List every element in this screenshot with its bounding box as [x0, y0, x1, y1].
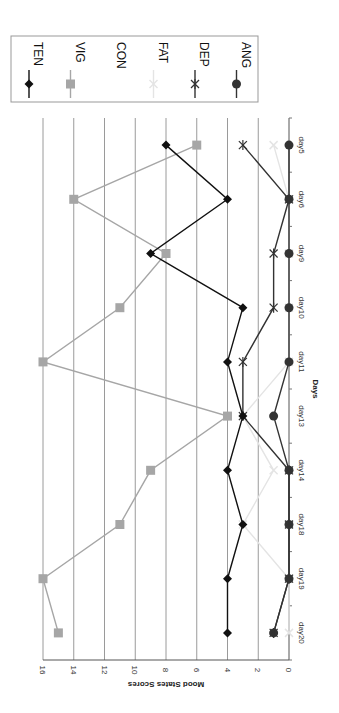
diamond-marker-icon	[223, 628, 232, 637]
mood-states-line-chart: TENVIGCONFATDEPANG day5day6day9day10day1…	[0, 0, 339, 713]
circle-marker-icon	[285, 357, 294, 366]
value-tick-label: 14	[69, 666, 78, 675]
series-line	[274, 145, 289, 633]
legend-label: TEN	[31, 42, 45, 66]
square-marker-icon	[223, 412, 232, 421]
square-marker-icon	[146, 466, 155, 475]
value-tick-label: 12	[100, 666, 109, 675]
category-label: day13	[297, 405, 306, 427]
square-marker-icon	[115, 520, 124, 529]
circle-marker-icon	[269, 412, 278, 421]
x-marker-icon	[270, 141, 278, 149]
legend-label: ANG	[239, 42, 253, 68]
asterisk-marker-icon	[239, 140, 247, 150]
value-tick-label: 0	[284, 668, 293, 673]
x-marker-icon	[270, 466, 278, 474]
legend-label: FAT	[156, 42, 170, 64]
category-label: day10	[297, 297, 306, 319]
legend-box	[11, 36, 258, 102]
y-axis-title: Mood States Scores	[127, 680, 204, 689]
value-tick-label: 16	[38, 666, 47, 675]
value-tick-label: 8	[161, 668, 170, 673]
square-marker-icon	[69, 195, 78, 204]
series-line	[243, 145, 289, 633]
circle-marker-icon	[285, 141, 294, 150]
value-tick-label: 6	[192, 668, 201, 673]
square-marker-icon	[39, 574, 48, 583]
legend-label: VIG	[73, 42, 87, 63]
circle-marker-icon	[285, 249, 294, 258]
asterisk-marker-icon	[239, 357, 247, 367]
category-label: day6	[297, 191, 306, 209]
square-marker-icon	[66, 80, 75, 89]
legend: TENVIGCONFATDEPANG	[11, 36, 258, 102]
diamond-marker-icon	[223, 574, 232, 583]
category-label: day14	[297, 459, 306, 481]
square-marker-icon	[162, 249, 171, 258]
category-label: day5	[297, 136, 306, 154]
circle-marker-icon	[285, 303, 294, 312]
square-marker-icon	[192, 141, 201, 150]
circle-marker-icon	[232, 80, 241, 89]
value-tick-label: 4	[223, 668, 232, 673]
category-label: day9	[297, 245, 306, 263]
asterisk-marker-icon	[270, 303, 278, 313]
square-marker-icon	[54, 628, 63, 637]
square-marker-icon	[115, 303, 124, 312]
category-label: day11	[297, 351, 306, 373]
asterisk-marker-icon	[270, 249, 278, 259]
diamond-marker-icon	[223, 466, 232, 475]
category-label: day18	[297, 514, 306, 536]
category-label: day19	[297, 568, 306, 590]
diamond-marker-icon	[238, 303, 247, 312]
square-marker-icon	[39, 357, 48, 366]
legend-label: CON	[114, 42, 128, 69]
legend-item-con: CON	[114, 42, 128, 69]
x-axis-title: Days	[311, 379, 320, 399]
diamond-marker-icon	[223, 357, 232, 366]
diamond-marker-icon	[146, 249, 155, 258]
category-label: day20	[297, 622, 306, 644]
legend-label: DEP	[197, 42, 211, 67]
value-tick-label: 2	[253, 668, 262, 673]
value-tick-label: 10	[130, 666, 139, 675]
